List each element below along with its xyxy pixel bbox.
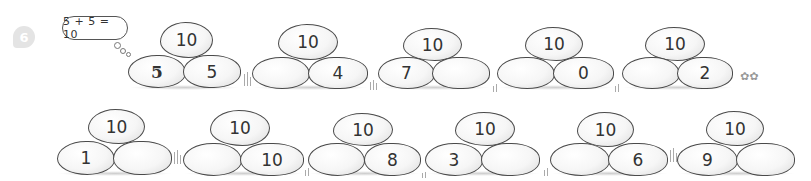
stone-left-part: 1 — [57, 141, 115, 175]
stone-left-answer[interactable] — [252, 57, 310, 89]
thought-dot-icon — [126, 52, 131, 57]
stone-left-answer[interactable]: 5 — [128, 55, 186, 88]
stone-top-sum: 10 — [278, 24, 338, 60]
stone-top-sum: 10 — [706, 111, 764, 146]
stone-top-sum: 10 — [525, 27, 583, 61]
stone-right-answer[interactable] — [432, 57, 490, 89]
stone-right-answer[interactable] — [113, 141, 172, 175]
stone-right-part: 8 — [364, 143, 421, 176]
stone-right-part: 5 — [183, 55, 241, 88]
stone-right-part: 6 — [608, 143, 668, 176]
stone-left-answer[interactable] — [308, 143, 365, 176]
stone-left-answer[interactable] — [183, 143, 242, 176]
stone-left-answer[interactable] — [622, 57, 680, 89]
thought-bubble-example: 5 + 5 = 10 — [62, 16, 128, 40]
stone-right-part: 2 — [677, 57, 733, 89]
grass-icon — [368, 76, 378, 90]
stone-right-part: 0 — [553, 57, 614, 89]
stone-left-part: 9 — [677, 143, 738, 176]
grass-icon — [242, 72, 252, 86]
stone-left-answer[interactable] — [497, 57, 555, 89]
problem-number-badge: 6 — [13, 26, 35, 48]
flower-icon: ✿✿ — [740, 70, 758, 83]
grass-icon — [613, 78, 623, 92]
stone-left-answer[interactable] — [550, 143, 610, 176]
stone-right-part: 4 — [308, 57, 368, 89]
stone-top-sum: 10 — [210, 110, 270, 146]
stone-top-sum: 10 — [333, 113, 393, 146]
stone-left-part: 3 — [425, 143, 483, 176]
stone-top-sum: 10 — [88, 109, 145, 144]
stone-top-sum: 10 — [455, 112, 515, 146]
stone-top-sum: 10 — [645, 27, 705, 61]
stone-top-sum: 10 — [160, 22, 213, 58]
stone-right-part: 10 — [240, 143, 304, 176]
stone-right-answer[interactable] — [736, 143, 795, 176]
stone-top-sum: 10 — [577, 112, 634, 147]
stone-left-part: 7 — [378, 57, 435, 89]
stone-top-sum: 10 — [403, 28, 462, 61]
grass-icon — [172, 150, 182, 164]
stone-right-answer[interactable] — [481, 143, 540, 176]
